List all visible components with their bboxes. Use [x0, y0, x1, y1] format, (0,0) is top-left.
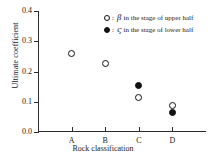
open-circle-icon	[104, 15, 110, 21]
x-axis-line	[38, 131, 206, 132]
data-point-lower-half-D	[169, 109, 176, 116]
x-tick-mark	[72, 127, 73, 132]
y-tick: 0.4	[38, 11, 39, 12]
legend-item-1: :βin the stage of upper half	[104, 12, 193, 24]
legend-item-2: :ςin the stage of lower half	[104, 24, 193, 36]
y-tick-mark	[34, 41, 39, 42]
data-point-upper-half-A	[68, 50, 75, 57]
legend-colon: :	[112, 24, 114, 36]
x-tick: D	[172, 131, 173, 132]
data-point-upper-half-B	[102, 60, 109, 67]
y-tick: 0.1	[38, 102, 39, 103]
y-tick: 0.3	[38, 41, 39, 42]
legend-symbol: β	[117, 12, 122, 24]
x-tick-mark	[172, 127, 173, 132]
x-tick-mark	[139, 127, 140, 132]
y-tick-label: 0.3	[22, 36, 32, 45]
y-tick-mark	[34, 132, 39, 133]
x-tick: A	[72, 131, 73, 132]
scatter-chart: Ultimate coefficient 0.00.10.20.30.4 ABC…	[0, 0, 224, 159]
y-tick: 0.0	[38, 132, 39, 133]
data-point-upper-half-C	[135, 94, 142, 101]
legend-colon: :	[112, 12, 114, 24]
legend-label: in the stage of lower half	[123, 24, 193, 36]
filled-circle-icon	[104, 27, 110, 33]
data-point-lower-half-C	[135, 82, 142, 89]
y-tick-label: 0.2	[22, 67, 32, 76]
y-axis-title: Ultimate coefficient	[11, 8, 20, 104]
chart-legend: :βin the stage of upper half:ςin the sta…	[104, 12, 193, 36]
legend-label: in the stage of upper half	[124, 12, 194, 24]
x-tick: B	[105, 131, 106, 132]
y-tick-label: 0.0	[22, 127, 32, 136]
y-tick-label: 0.4	[22, 6, 32, 15]
x-axis-title: Rock classification	[38, 144, 168, 153]
y-tick-mark	[34, 11, 39, 12]
x-tick: C	[139, 131, 140, 132]
legend-symbol: ς	[117, 24, 121, 36]
y-tick-label: 0.1	[22, 97, 32, 106]
y-tick: 0.2	[38, 72, 39, 73]
x-tick-mark	[105, 127, 106, 132]
y-tick-mark	[34, 102, 39, 103]
y-tick-mark	[34, 72, 39, 73]
